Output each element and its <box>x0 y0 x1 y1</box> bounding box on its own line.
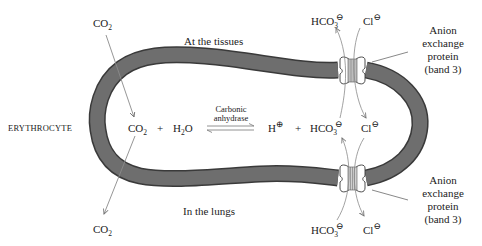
bottom-bicarbonate-label: HCO3⊖ <box>311 221 344 239</box>
svg-text:protein: protein <box>427 200 459 212</box>
label-pointer-bottom <box>372 190 408 200</box>
svg-text:exchange: exchange <box>422 37 464 49</box>
region-label-lungs: In the lungs <box>183 205 235 217</box>
top-chloride-label: Cl⊖ <box>363 12 381 27</box>
svg-text:(band 3): (band 3) <box>425 63 462 76</box>
equation-plus-2: + <box>295 122 301 134</box>
anion-exchange-protein-label-bottom: Anion exchange protein (band 3) <box>422 174 464 226</box>
equation-plus-1: + <box>157 122 163 134</box>
top-bicarbonate-label: HCO3⊖ <box>311 12 344 30</box>
equation-bicarbonate: HCO3⊖ <box>310 119 343 137</box>
erythrocyte-co2-transport-diagram: CO2 CO2 At the tissues In the lungs ERYT… <box>0 0 482 246</box>
svg-text:Anion: Anion <box>429 24 457 36</box>
equation-proton: H⊕ <box>268 119 284 134</box>
svg-text:(band 3): (band 3) <box>425 213 462 226</box>
label-pointer-top <box>372 52 408 62</box>
anion-exchanger-bottom <box>340 165 365 192</box>
cell-membrane <box>97 55 420 179</box>
enzyme-label-line2: anhydrase <box>214 113 249 123</box>
equilibrium-arrows <box>207 124 254 133</box>
equation-chloride: Cl⊖ <box>361 119 379 134</box>
equation-h2o: H2O <box>173 122 193 137</box>
svg-text:exchange: exchange <box>422 187 464 199</box>
anion-exchanger-top <box>340 57 365 84</box>
co2-top-label: CO2 <box>93 17 112 32</box>
cell-label-erythrocyte: ERYTHROCYTE <box>8 123 72 133</box>
equation-co2: CO2 <box>128 122 147 137</box>
co2-bottom-label: CO2 <box>93 223 112 238</box>
anion-exchange-protein-label-top: Anion exchange protein (band 3) <box>422 24 464 76</box>
region-label-tissues: At the tissues <box>184 35 243 47</box>
svg-text:Anion: Anion <box>429 174 457 186</box>
svg-text:protein: protein <box>427 50 459 62</box>
bottom-chloride-label: Cl⊖ <box>363 221 381 236</box>
